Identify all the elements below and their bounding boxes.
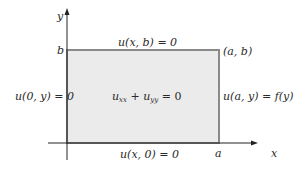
top-boundary-condition: u(x, b) = 0	[118, 37, 177, 48]
right-boundary-condition: u(a, y) = f(y)	[223, 91, 294, 102]
left-boundary-condition: u(0, y) = 0	[15, 91, 74, 102]
y-axis-label: y	[57, 11, 63, 22]
b-label: b	[57, 45, 64, 56]
x-axis-label: x	[271, 148, 277, 159]
eq-sub-xx: xx	[119, 96, 127, 104]
a-label: a	[215, 148, 222, 159]
laplace-equation: uxx + uyy = 0	[112, 91, 181, 104]
y-axis-arrow-icon	[65, 8, 70, 15]
eq-plus: +	[127, 90, 143, 103]
x-axis-arrow-icon	[251, 141, 258, 146]
bottom-boundary-condition: u(x, 0) = 0	[120, 149, 179, 160]
diagram-canvas	[0, 0, 297, 170]
corner-ab-label: (a, b)	[223, 46, 252, 57]
eq-equals-zero: = 0	[158, 90, 181, 103]
